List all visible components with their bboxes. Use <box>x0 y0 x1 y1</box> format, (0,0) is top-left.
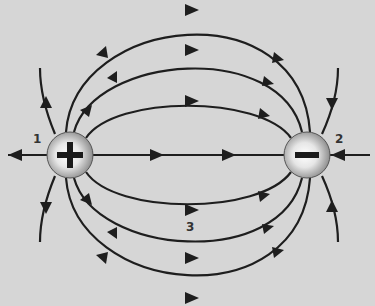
arrow-icon <box>185 292 199 304</box>
positive-charge <box>47 132 93 178</box>
arrow-icon <box>40 96 52 108</box>
point-label-2: 2 <box>335 132 343 146</box>
arrow-icon <box>258 191 270 202</box>
arrow-icon <box>96 252 108 264</box>
dipole-diagram: 1 2 3 <box>0 0 375 306</box>
arrow-icon <box>8 149 22 161</box>
arrow-icon <box>40 202 52 214</box>
minus-icon <box>295 152 319 158</box>
arrow-icon <box>262 224 274 234</box>
arrow-icon <box>107 227 117 239</box>
arrow-icon <box>96 46 108 58</box>
arrow-icon <box>331 149 345 161</box>
arrow-icon <box>258 108 270 119</box>
point-label-3: 3 <box>186 220 194 234</box>
point-label-1: 1 <box>33 132 41 146</box>
arrow-icon <box>272 247 284 258</box>
field-lines-canvas <box>0 0 375 306</box>
arrow-icon <box>326 200 338 212</box>
arrow-icon <box>150 149 164 161</box>
arrow-icon <box>185 44 199 56</box>
arrow-icon <box>185 4 199 16</box>
arrow-icon <box>222 149 236 161</box>
arrow-icon <box>326 98 338 110</box>
arrow-icon <box>185 204 199 216</box>
arrow-icon <box>185 252 199 264</box>
arrow-icon <box>272 52 284 63</box>
negative-charge <box>284 132 330 178</box>
arrow-icon <box>107 71 117 83</box>
arrow-icon <box>262 76 274 86</box>
